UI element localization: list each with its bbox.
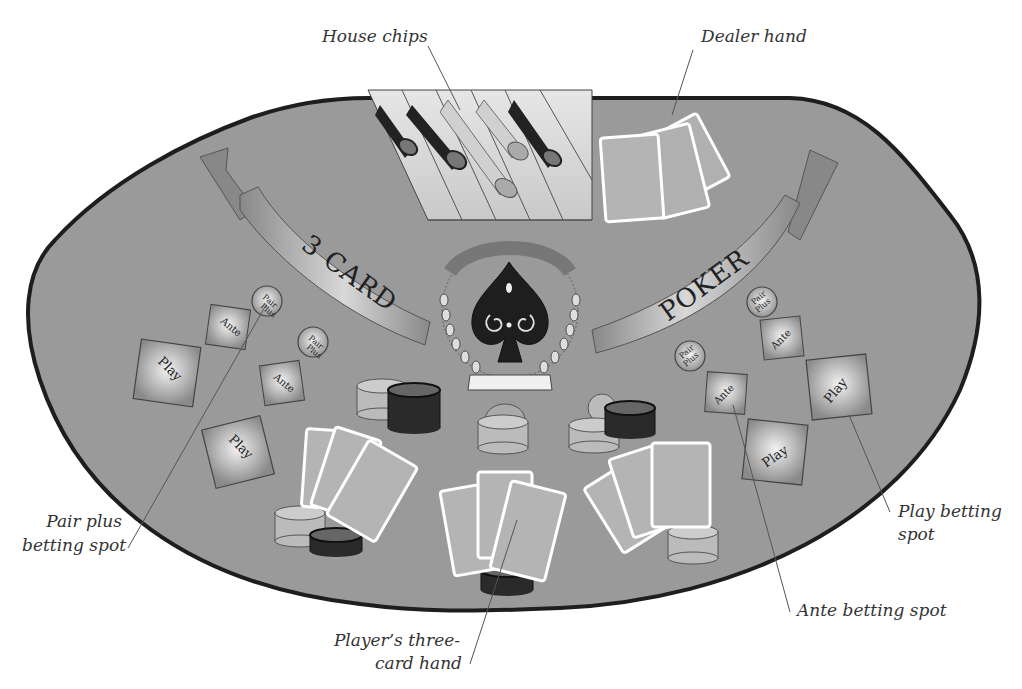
- dark-chip-stack: [310, 528, 362, 557]
- dark-chip-stack: [605, 401, 655, 439]
- label-pair-plus-line1: Pair plus: [45, 511, 122, 531]
- three-card-poker-table-diagram: 3 CARD POKER Pair Plus: [0, 0, 1022, 689]
- ante-spot[interactable]: Ante: [760, 316, 804, 360]
- play-spot[interactable]: Play: [806, 354, 872, 420]
- label-player-hand-line2: card hand: [375, 653, 462, 673]
- pair-plus-spot[interactable]: Pair Plus: [675, 341, 705, 371]
- player-hand-center[interactable]: [440, 472, 566, 581]
- light-chip-stack: [668, 525, 718, 564]
- label-player-hand-line1: Player’s three-: [333, 630, 460, 650]
- pair-plus-spot[interactable]: Pair Plus: [747, 287, 777, 317]
- label-ante: Ante betting spot: [795, 600, 947, 620]
- label-play-line1: Play betting: [897, 501, 1002, 521]
- label-dealer-hand: Dealer hand: [700, 26, 807, 46]
- label-pair-plus-line2: betting spot: [22, 535, 126, 555]
- ante-spot[interactable]: Ante: [705, 372, 748, 415]
- label-play-line2: spot: [898, 524, 935, 544]
- dark-chip-stack: [388, 383, 440, 434]
- ante-spot[interactable]: Ante: [205, 304, 250, 349]
- label-house-chips: House chips: [321, 26, 428, 46]
- ante-spot[interactable]: Ante: [259, 360, 304, 405]
- play-spot[interactable]: Play: [133, 339, 201, 407]
